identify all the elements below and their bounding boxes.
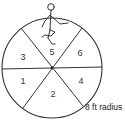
stick-figure-icon <box>42 4 68 44</box>
radius-label: 8 ft radius <box>85 102 122 112</box>
sector-label-4: 4 <box>78 76 83 86</box>
sector-label-5: 5 <box>49 47 54 57</box>
sector-label-6: 6 <box>77 48 82 58</box>
sector-label-1: 1 <box>20 76 25 86</box>
sector-label-3: 3 <box>20 52 25 62</box>
sector-circle-diagram: 1 2 3 4 5 6 8 ft radius <box>0 0 125 128</box>
sector-label-2: 2 <box>50 89 55 99</box>
center-point <box>51 67 54 70</box>
